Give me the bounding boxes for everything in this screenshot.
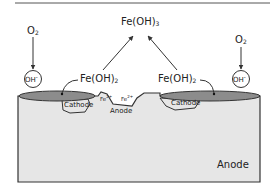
label-anode-pit: Anode	[110, 108, 132, 115]
label-fe2-a: Fe2+	[100, 95, 112, 102]
label-fe-oh2-left: Fe(OH)2	[80, 74, 118, 84]
label-fe-oh2-right: Fe(OH)2	[158, 74, 196, 84]
label-cathode-right: Cathode	[171, 100, 200, 107]
label-fe-oh3: Fe(OH)3	[121, 17, 159, 27]
arrow-right-to-feoh3	[148, 36, 177, 70]
arrow-left-to-feoh3	[103, 36, 133, 70]
deposit-left	[19, 91, 95, 101]
label-o2-left: O2	[27, 26, 39, 36]
label-fe2-b: Fe2+	[121, 95, 133, 102]
label-oh-right: OH-	[233, 75, 246, 84]
corrosion-diagram: Fe(OH)3 O2 O2 OH- OH- Fe(OH)2 Fe(OH)2 Fe…	[0, 0, 279, 196]
label-o2-right: O2	[235, 35, 247, 45]
label-anode-bulk: Anode	[217, 160, 249, 170]
label-oh-left: OH-	[25, 75, 38, 84]
label-cathode-left: Cathode	[64, 102, 93, 109]
